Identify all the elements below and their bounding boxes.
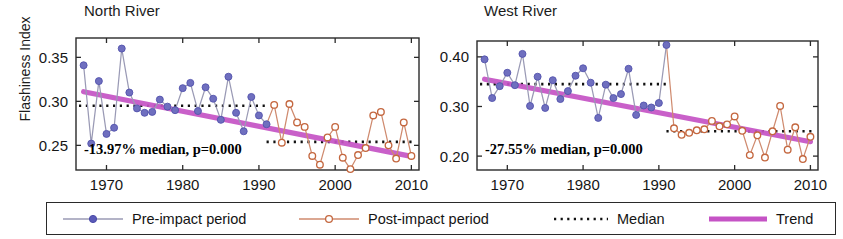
- data-point-post-impact: [807, 133, 814, 140]
- legend-item-pre-impact: Pre-impact period: [61, 203, 246, 234]
- data-point-pre-impact: [527, 102, 534, 109]
- data-point-pre-impact: [489, 95, 496, 102]
- legend-label-post-impact: Post-impact period: [368, 211, 489, 227]
- thick-line-icon: [707, 212, 769, 226]
- data-point-post-impact: [709, 118, 716, 125]
- data-point-pre-impact: [481, 56, 488, 63]
- data-point-post-impact: [754, 132, 761, 139]
- data-point-pre-impact: [580, 65, 587, 72]
- data-point-post-impact: [716, 123, 723, 130]
- data-point-post-impact: [747, 152, 754, 159]
- x-tick-label: 2010: [794, 176, 827, 193]
- data-point-pre-impact: [504, 69, 511, 76]
- data-point-pre-impact: [617, 91, 624, 98]
- data-point-pre-impact: [519, 50, 526, 57]
- data-point-pre-impact: [640, 102, 647, 109]
- y-tick-label: 0.30: [440, 98, 469, 115]
- dotted-line-icon: [552, 212, 610, 226]
- x-tick-label: 1980: [566, 176, 599, 193]
- data-point-post-impact: [784, 146, 791, 153]
- x-tick-label: 1990: [642, 176, 675, 193]
- data-point-pre-impact: [564, 88, 571, 95]
- data-point-pre-impact: [602, 81, 609, 88]
- open-circle-icon: [297, 212, 361, 226]
- data-point-post-impact: [724, 121, 731, 128]
- x-tick-label: 2000: [718, 176, 751, 193]
- y-tick-label: 0.20: [440, 148, 469, 165]
- data-point-pre-impact: [633, 111, 640, 118]
- data-point-post-impact: [731, 113, 738, 120]
- data-point-post-impact: [792, 124, 799, 131]
- data-point-post-impact: [686, 129, 693, 136]
- legend-item-post-impact: Post-impact period: [297, 203, 489, 234]
- data-point-pre-impact: [496, 83, 503, 90]
- legend-item-median: Median: [552, 203, 665, 234]
- legend-label-median: Median: [617, 211, 665, 227]
- filled-circle-icon: [61, 212, 125, 226]
- data-point-post-impact: [693, 127, 700, 134]
- legend-label-trend: Trend: [776, 211, 813, 227]
- legend-item-trend: Trend: [707, 203, 813, 234]
- trend-line: [485, 79, 811, 142]
- data-point-pre-impact: [511, 82, 518, 89]
- data-point-post-impact: [777, 103, 784, 110]
- data-point-post-impact: [701, 126, 708, 133]
- data-point-post-impact: [671, 125, 678, 132]
- data-point-pre-impact: [549, 77, 556, 84]
- data-point-pre-impact: [663, 41, 670, 48]
- legend-label-pre-impact: Pre-impact period: [132, 211, 246, 227]
- data-point-pre-impact: [625, 65, 632, 72]
- data-point-pre-impact: [557, 96, 564, 103]
- data-point-post-impact: [678, 131, 685, 138]
- data-point-pre-impact: [542, 104, 549, 111]
- data-point-pre-impact: [655, 100, 662, 107]
- data-point-post-impact: [769, 128, 776, 135]
- data-point-post-impact: [762, 154, 769, 161]
- data-point-pre-impact: [587, 79, 594, 86]
- x-tick-label: 1970: [491, 176, 524, 193]
- data-point-pre-impact: [572, 72, 579, 79]
- data-point-post-impact: [739, 128, 746, 135]
- data-point-pre-impact: [595, 114, 602, 121]
- legend: Pre-impact period Post-impact period Med…: [46, 202, 836, 235]
- data-point-post-impact: [800, 156, 807, 163]
- flashiness-index-figure: North River West River Flashiness Index …: [0, 0, 843, 239]
- trend-annotation: -27.55% median, p=0.000: [485, 141, 643, 157]
- data-point-pre-impact: [534, 73, 541, 80]
- data-point-pre-impact: [648, 104, 655, 111]
- y-tick-label: 0.40: [440, 48, 469, 65]
- data-point-pre-impact: [610, 95, 617, 102]
